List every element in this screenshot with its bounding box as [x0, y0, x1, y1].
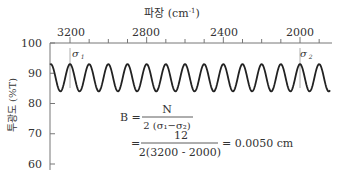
y-tick-label: 100 [21, 37, 42, 50]
y-tick-label: 90 [28, 67, 42, 80]
sigma1-label: σ1 [72, 48, 85, 60]
sigma2-label: σ2 [300, 48, 313, 60]
y-tick-label: 80 [28, 97, 42, 110]
formula-den-2: 2(3200 - 2000) [139, 146, 221, 159]
x-tick-label: 2400 [210, 26, 238, 39]
y-tick-labels: 100 90 80 70 60 [21, 37, 42, 171]
formula: B = N 2 (σ₁−σ₂) = 12 2(3200 - 2000) = 0.… [120, 103, 294, 159]
x-axis-title: 파장 (cm-1) [144, 7, 200, 20]
x-tick-label: 2800 [132, 26, 160, 39]
formula-lhs-1: B = [120, 111, 141, 124]
formula-result: = 0.0050 cm [222, 137, 294, 150]
y-axis-title: 투광도 (%T) [7, 78, 18, 132]
formula-num-1: N [162, 103, 172, 116]
interference-chart: 파장 (cm-1) 3200 2800 2400 2000 100 90 80 … [0, 0, 345, 183]
x-tick-labels: 3200 2800 2400 2000 [57, 26, 314, 39]
x-tick-label: 3200 [57, 26, 85, 39]
y-tick-label: 70 [28, 127, 42, 140]
formula-num-2: 12 [174, 129, 188, 142]
x-ticks [70, 37, 319, 43]
y-ticks [50, 43, 55, 164]
fringe-series-line [50, 64, 330, 91]
y-tick-label: 60 [28, 158, 42, 171]
